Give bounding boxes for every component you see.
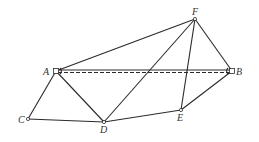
- point-B-marker: [230, 69, 235, 74]
- segment-CD: [28, 119, 104, 122]
- label-C: C: [18, 114, 25, 125]
- segment-AF: [56, 19, 195, 71]
- label-F: F: [191, 6, 199, 17]
- segment-EB: [181, 71, 232, 110]
- point-F-marker: [193, 17, 196, 20]
- segment-AC: [28, 71, 56, 119]
- angle-mark-B: [227, 68, 228, 74]
- segment-DE: [104, 110, 181, 122]
- geometry-diagram: A B C D E F: [0, 0, 259, 142]
- label-E: E: [176, 112, 183, 123]
- label-A: A: [42, 66, 50, 77]
- point-A-marker: [54, 69, 59, 74]
- angle-mark-A: [60, 68, 61, 74]
- segment-AD: [56, 71, 104, 122]
- label-D: D: [99, 124, 108, 135]
- label-B: B: [236, 66, 242, 77]
- segment-FB: [195, 19, 232, 71]
- point-C-marker: [26, 117, 29, 120]
